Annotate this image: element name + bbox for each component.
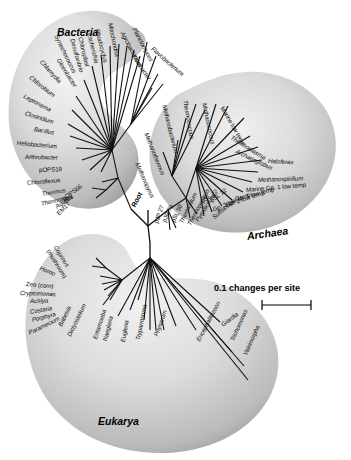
- phylogenetic-tree-figure: Bacteria Archaea Eukarya Root 0.1 change…: [0, 0, 351, 460]
- domain-label-eukarya: Eukarya: [98, 415, 139, 427]
- taxon-label-pops19: pOPS19: [39, 166, 62, 173]
- taxon-label-haloferax: Haloferax: [268, 158, 294, 166]
- scale-bar-label: 0.1 changes per site: [214, 283, 300, 293]
- taxon-label-arthrobacter: Arthrobacter: [25, 154, 58, 161]
- taxon-label-achlya: Achlya: [30, 298, 48, 305]
- scale-bar: [262, 300, 311, 310]
